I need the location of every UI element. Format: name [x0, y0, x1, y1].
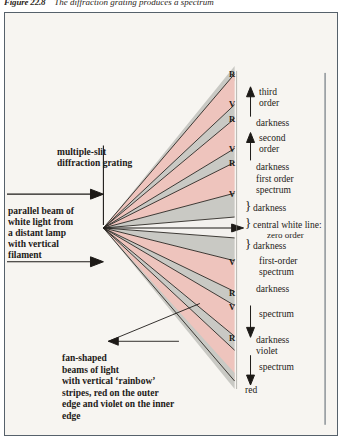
figure-caption-text: The diffraction grating produces a spect…: [54, 0, 213, 7]
edge-marker-violet-second: V: [229, 144, 235, 154]
figure-number: Figure 22.8: [4, 0, 45, 7]
fan-label-line5: edge and violet on the inner: [62, 399, 214, 411]
figure-page: Figure 22.8The diffraction grating produ…: [0, 0, 344, 441]
label-darkness-2: darkness: [256, 162, 289, 173]
brace-darkness-4: }: [245, 239, 251, 248]
label-violet-edge: violet: [256, 346, 278, 357]
brace-zero-order: }: [245, 218, 251, 227]
label-darkness-4: darkness: [253, 241, 286, 252]
label-spectrum-third-lower: spectrum: [259, 362, 294, 373]
fan-label-line4: stripes, red on the outer: [62, 388, 214, 400]
beam-label-line3: a distant lamp: [8, 228, 66, 238]
figure-caption: Figure 22.8The diffraction grating produ…: [4, 0, 340, 11]
edge-marker-violet-third: V: [229, 99, 235, 109]
label-darkness-1: darkness: [256, 118, 289, 129]
edge-marker-red-second-lower: R: [229, 333, 235, 343]
label-third-order-line1: third: [259, 87, 277, 98]
label-spectrum-second-lower: spectrum: [259, 309, 294, 320]
label-second-order-line1: second: [259, 133, 285, 144]
brace-darkness-3: }: [245, 201, 251, 210]
edge-marker-red-second: R: [229, 114, 235, 124]
fan-label-line2: beams of light: [62, 365, 214, 377]
label-darkness-6: darkness: [256, 335, 289, 346]
label-first-order-lower-line2: spectrum: [259, 267, 294, 278]
label-third-order-line2: order: [259, 98, 279, 109]
edge-marker-red-third: R: [229, 69, 235, 79]
grating-label-line1: multiple-slit: [57, 147, 106, 157]
edge-marker-violet-first-lower: V: [229, 257, 235, 267]
label-second-order-line2: order: [259, 144, 279, 155]
label-zero-order-line1: central white line:: [253, 220, 322, 231]
edge-marker-violet-second-lower: V: [229, 302, 235, 312]
edge-marker-red-first-lower: R: [229, 288, 235, 298]
fan-label-line3: with vertical ‘rainbow’: [62, 376, 214, 388]
fan-label-line1: fan-shaped: [62, 353, 214, 365]
beam-label-line1: parallel beam of: [8, 206, 74, 216]
label-zero-order-line2: zero order: [267, 230, 304, 241]
label-fan-shaped-beams: fan-shaped beams of light with vertical …: [62, 353, 214, 422]
label-darkness-3: darkness: [253, 203, 286, 214]
label-first-order-line1: first order: [256, 174, 294, 185]
edge-marker-red-first: R: [229, 158, 235, 168]
beam-label-line2: white light from: [8, 217, 73, 227]
beam-label-line4: with vertical: [8, 239, 59, 249]
label-red-edge: red: [245, 385, 257, 396]
beam-label-line5: filament: [8, 250, 42, 260]
label-first-order-lower-line1: first-order: [259, 256, 298, 267]
fan-label-line6: edge: [62, 411, 214, 423]
label-first-order-line2: spectrum: [256, 185, 291, 196]
label-multiple-slit-diffraction-grating: multiple-slit diffraction grating: [57, 147, 161, 169]
label-parallel-beam: parallel beam of white light from a dist…: [8, 206, 104, 261]
figure-frame: R V R V R V V R V R third order darkness…: [4, 12, 338, 436]
grating-label-line2: diffraction grating: [57, 158, 132, 168]
label-darkness-5: darkness: [256, 284, 289, 295]
edge-marker-violet-first: V: [229, 189, 235, 199]
